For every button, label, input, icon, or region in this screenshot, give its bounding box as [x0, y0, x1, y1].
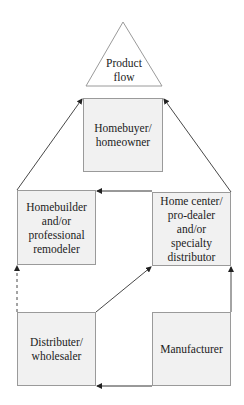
node-manufacturer: Manufacturer [152, 312, 231, 386]
node-homebuyer: Homebuyer/ homeowner [83, 98, 163, 172]
node-home-center-label: Home center/ pro-dealer and/or specialty… [160, 194, 222, 264]
node-manufacturer-label: Manufacturer [160, 342, 223, 356]
node-homebuilder: Homebuilder and/or professional remodele… [17, 190, 96, 265]
product-flow-label: Product flow [93, 56, 155, 84]
edge-homebuilder-to-homebuyer [17, 99, 82, 190]
edge-distributer-to-homecenter [96, 267, 151, 312]
node-homebuilder-label: Homebuilder and/or professional remodele… [26, 200, 87, 256]
node-distributer: Distributer/ wholesaler [17, 312, 96, 386]
node-home-center: Home center/ pro-dealer and/or specialty… [152, 192, 231, 266]
node-distributer-label: Distributer/ wholesaler [30, 335, 83, 363]
edge-homecenter-to-homebuyer [164, 99, 231, 192]
node-homebuyer-label: Homebuyer/ homeowner [94, 121, 151, 149]
